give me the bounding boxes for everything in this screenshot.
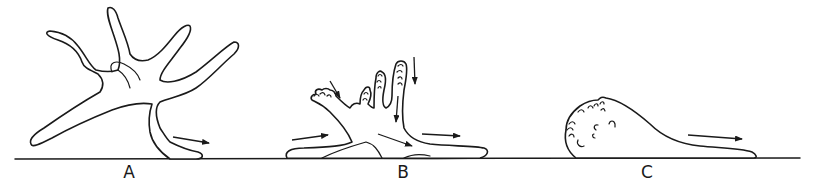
- panel-c: C: [565, 97, 756, 182]
- arrow-b-left: [292, 135, 328, 140]
- arrow-b-top-right: [414, 57, 415, 84]
- panel-label-c: C: [641, 162, 653, 182]
- cell-a-outline: [31, 7, 239, 159]
- cell-motility-diagram: A B C: [0, 0, 817, 187]
- panel-b: B: [286, 57, 487, 182]
- arrow-b-right: [422, 134, 460, 136]
- arrow-a: [173, 137, 209, 143]
- cell-b-outline: [286, 61, 487, 158]
- panel-label-a: A: [123, 162, 135, 182]
- panel-label-b: B: [397, 162, 409, 182]
- panel-a: A: [31, 7, 239, 182]
- arrow-c: [688, 135, 742, 139]
